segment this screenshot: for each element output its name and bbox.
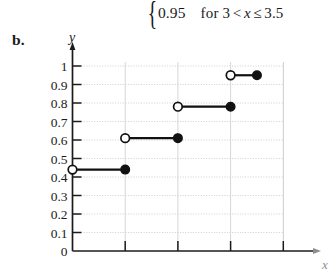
closed-endpoint-marker bbox=[121, 165, 130, 174]
y-axis-ticks bbox=[73, 66, 82, 233]
y-axis-tick-label: 0.4 bbox=[51, 170, 68, 185]
y-axis-tick-label: 0.8 bbox=[51, 96, 68, 111]
y-axis-tick-labels: 00.10.20.30.40.50.60.70.80.91 bbox=[51, 59, 68, 259]
open-endpoint-marker bbox=[121, 134, 130, 143]
closed-endpoint-marker bbox=[253, 71, 262, 80]
y-axis-tick-label: 0.9 bbox=[51, 78, 68, 93]
open-endpoint-marker bbox=[174, 102, 183, 111]
y-axis-tick-label: 0.6 bbox=[51, 133, 68, 148]
y-axis-tick-label: 1 bbox=[61, 59, 68, 74]
closed-endpoint-marker bbox=[226, 102, 235, 111]
y-axis-tick-label: 0.1 bbox=[51, 226, 68, 241]
y-axis-tick-label: 0.3 bbox=[51, 189, 68, 204]
step-function-chart: 00.10.20.30.40.50.60.70.80.91 bbox=[0, 0, 335, 273]
open-endpoint-marker bbox=[68, 165, 77, 174]
y-axis-arrowhead bbox=[70, 42, 76, 50]
y-axis-tick-label: 0 bbox=[61, 244, 68, 259]
closed-endpoint-marker bbox=[174, 134, 183, 143]
y-axis-tick-label: 0.5 bbox=[51, 152, 68, 167]
x-axis-arrowhead bbox=[313, 248, 321, 254]
horizontal-gridlines bbox=[74, 66, 284, 233]
vertical-gridlines bbox=[125, 62, 283, 250]
open-endpoint-marker bbox=[226, 71, 235, 80]
y-axis-tick-label: 0.7 bbox=[51, 115, 68, 130]
y-axis-tick-label: 0.2 bbox=[51, 207, 68, 222]
x-axis-ticks bbox=[125, 241, 283, 251]
